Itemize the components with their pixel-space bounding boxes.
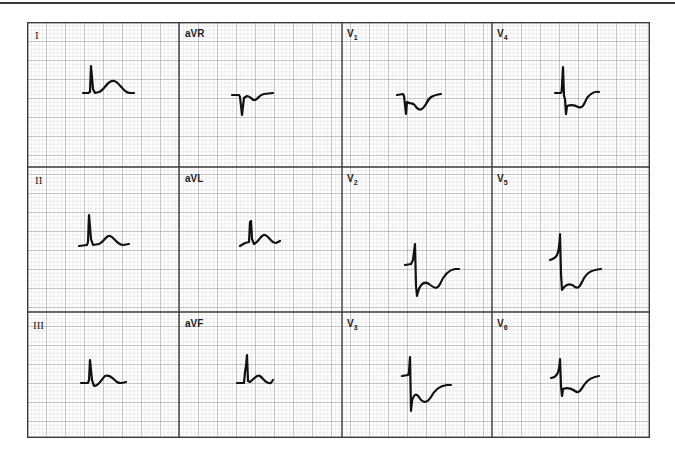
lead-label-V2: V2 bbox=[347, 173, 358, 186]
lead-label-II: II bbox=[35, 174, 42, 186]
lead-label-V5: V5 bbox=[497, 173, 508, 186]
ecg-svg bbox=[27, 22, 650, 438]
lead-label-V4: V4 bbox=[497, 28, 508, 41]
lead-label-I: I bbox=[35, 29, 39, 41]
top-rule bbox=[0, 2, 675, 4]
lead-label-V6: V6 bbox=[497, 318, 508, 331]
lead-label-III: III bbox=[33, 319, 44, 331]
ecg-grid: I aVR V1 V4 II aVL V2 V5 III aVF V3 V6 bbox=[27, 22, 650, 438]
lead-label-V1: V1 bbox=[347, 28, 358, 41]
lead-label-V3: V3 bbox=[347, 318, 358, 331]
lead-label-aVL: aVL bbox=[185, 173, 203, 184]
lead-label-aVR: aVR bbox=[185, 28, 204, 39]
lead-label-aVF: aVF bbox=[185, 318, 203, 329]
